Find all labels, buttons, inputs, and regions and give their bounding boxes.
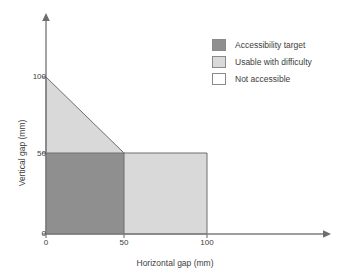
legend-swatch-not-accessible: [212, 73, 226, 85]
x-axis-title: Horizontal gap (mm): [60, 258, 290, 268]
legend-label-usable-with-difficulty: Usable with difficulty: [235, 57, 312, 67]
region-accessibility-target: [46, 153, 124, 234]
y-axis-title: Vertical gap (mm): [17, 93, 27, 213]
chart-figure: 0 50 100 0 50 100 Horizontal gap (mm) Ve…: [0, 0, 346, 279]
y-axis-arrow-icon: [42, 13, 50, 21]
x-tick-label-50: 50: [111, 238, 137, 247]
y-tick-label-0: 0: [20, 229, 46, 238]
legend-item-accessibility-target: Accessibility target: [212, 36, 344, 53]
legend-item-not-accessible: Not accessible: [212, 70, 344, 87]
chart-legend: Accessibility target Usable with difficu…: [212, 36, 344, 87]
legend-swatch-usable-with-difficulty: [212, 56, 226, 68]
x-tick-label-0: 0: [33, 238, 59, 247]
legend-label-accessibility-target: Accessibility target: [235, 40, 305, 50]
x-tick-label-100: 100: [194, 238, 220, 247]
y-tick-label-100: 100: [20, 72, 46, 81]
legend-swatch-accessibility-target: [212, 39, 226, 51]
x-axis-arrow-icon: [323, 230, 331, 238]
legend-item-usable-with-difficulty: Usable with difficulty: [212, 53, 344, 70]
legend-label-not-accessible: Not accessible: [235, 74, 290, 84]
